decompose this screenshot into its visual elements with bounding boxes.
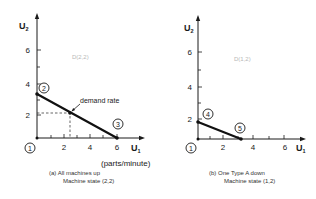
y-tick-label: 4 [26,80,31,89]
x-axis-arrow-icon [139,136,145,140]
svg-text:1: 1 [28,145,32,152]
x-tick-label: 6 [115,143,120,152]
vertex-label-2: 2 [39,83,49,93]
x-axis-arrow-icon [300,137,306,141]
y-tick-label: 6 [188,48,193,57]
x-tick-label: 4 [251,143,256,152]
vertex-point [196,120,200,124]
panel-b: 6 4 2 2 4 6 U2 U1 D(1,2) 1 4 [184,15,306,184]
svg-text:4: 4 [206,111,210,118]
demand-rate-annotation: demand rate [80,97,119,104]
vertex-point [239,137,243,141]
vertex-point [197,138,200,141]
x-axis-label: U1 [296,143,306,154]
demand-rate-guides [37,113,70,138]
x-tick-label: 6 [283,143,288,152]
y-tick-label: 6 [26,46,31,55]
y-ticks-a [37,50,41,115]
vertex-label-1: 1 [25,143,35,153]
svg-text:2: 2 [42,85,46,92]
vertex-point [36,137,39,140]
x-tick-label: 2 [62,143,67,152]
vertex-point [115,136,119,140]
y-axis-arrow-icon [35,13,39,19]
y-axis-label: U2 [184,23,194,34]
diagram-canvas: 6 4 2 2 4 6 U2 U1 (parts/minute) D(2,2) … [0,0,316,199]
x-ticks-b [210,135,284,139]
panel-a: 6 4 2 2 4 6 U2 U1 (parts/minute) D(2,2) … [19,13,151,184]
demand-rate-point [68,111,72,115]
y-tick-label: 4 [188,83,193,92]
caption-a-line2: Machine state (2,2) [63,178,114,184]
svg-text:3: 3 [116,121,120,128]
vertex-label-3: 3 [113,119,123,129]
svg-text:1: 1 [189,145,193,152]
y-axis-label: U2 [19,21,29,32]
vertex-label-4: 4 [203,109,213,119]
vertex-label-5: 5 [235,123,245,133]
x-tick-label: 2 [221,143,226,152]
region-label: D(1,2) [234,56,251,62]
y-tick-label: 2 [188,115,193,124]
y-tick-label: 2 [26,111,31,120]
caption-b-line1: (b) One Type A down [209,170,265,176]
caption-a-line1: (a) All machines up [49,170,101,176]
capacity-frontier-line [198,122,241,139]
y-ticks-b [198,52,202,119]
x-axis-unit: (parts/minute) [101,159,151,168]
x-tick-label: 4 [88,143,93,152]
region-label: D(2,2) [72,54,89,60]
vertex-point [35,92,39,96]
x-ticks-a [51,134,117,138]
x-axis-label: U1 [131,143,141,154]
y-axis-arrow-icon [196,15,200,21]
caption-b-line2: Machine state (1,2) [224,178,275,184]
svg-text:5: 5 [238,125,242,132]
vertex-label-1: 1 [186,143,196,153]
